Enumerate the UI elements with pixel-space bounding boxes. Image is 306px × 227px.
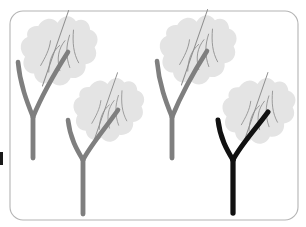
image-canvas — [0, 0, 306, 227]
plant-figures-illustration — [0, 0, 306, 227]
clipped-edge-sliver — [0, 152, 3, 165]
